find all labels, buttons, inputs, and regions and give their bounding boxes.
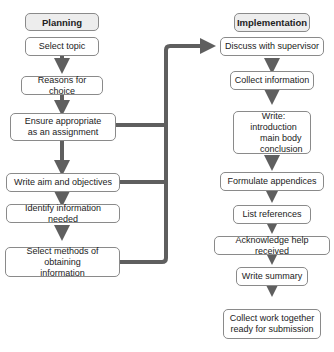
implementation-title: Implementation <box>237 17 307 28</box>
impl-step-references: List references <box>233 205 311 224</box>
impl-step-discuss: Discuss with supervisor <box>220 37 324 56</box>
impl-step-appendices: Formulate appendices <box>220 172 324 191</box>
impl-step-summary: Write summary <box>236 267 308 286</box>
planning-step-reasons: Reasons for choice <box>21 76 103 95</box>
step-text: List references <box>242 209 301 220</box>
impl-step-write-sections: Write: introduction main body conclusion <box>233 111 311 154</box>
step-text: Discuss with supervisor <box>225 41 319 52</box>
step-text: Collect work together <box>230 313 315 324</box>
step-text: Formulate appendices <box>227 176 316 187</box>
planning-step-ensure-appropriate: Ensure appropriate as an assignment <box>10 113 116 141</box>
step-text: information <box>40 268 85 279</box>
step-text: Write aim and objectives <box>14 177 112 188</box>
step-text: Select topic <box>39 41 86 52</box>
step-text: Write: introduction <box>240 111 307 133</box>
step-text: Collect information <box>235 75 310 86</box>
step-text: conclusion <box>240 144 303 155</box>
step-text: Identify information needed <box>10 203 116 225</box>
planning-step-select-methods: Select methods of obtaining information <box>5 247 120 277</box>
step-text: Select methods of obtaining <box>9 246 116 268</box>
step-text: Reasons for choice <box>25 75 99 97</box>
planning-header: Planning <box>25 13 99 31</box>
impl-step-acknowledge: Acknowledge help received <box>214 236 330 255</box>
planning-step-aim-objectives: Write aim and objectives <box>6 173 120 192</box>
step-text: as an assignment <box>28 127 99 138</box>
planning-step-identify-info: Identify information needed <box>6 204 120 223</box>
step-text: Ensure appropriate <box>25 116 102 127</box>
impl-step-collect-work: Collect work together ready for submissi… <box>223 309 321 339</box>
planning-step-select-topic: Select topic <box>25 37 99 56</box>
step-text: Acknowledge help received <box>218 235 326 257</box>
impl-step-collect-info: Collect information <box>230 71 314 90</box>
step-text: ready for submission <box>230 324 313 335</box>
step-text: main body <box>240 133 302 144</box>
implementation-header: Implementation <box>234 13 310 32</box>
planning-title: Planning <box>42 17 82 28</box>
step-text: Write summary <box>242 271 302 282</box>
